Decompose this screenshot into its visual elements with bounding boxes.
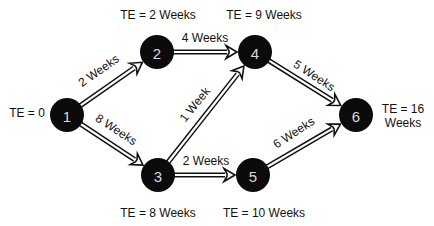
expected-time-label-line2: Weeks [385, 116, 421, 130]
node-number: 2 [153, 45, 161, 62]
expected-time-label: TE = 0 [9, 106, 45, 120]
edge-duration-label: 1 Week [177, 84, 214, 125]
node-number: 6 [352, 108, 360, 125]
edge-duration-label: 4 Weeks [182, 31, 228, 45]
pert-network-diagram: 123456 2 Weeks8 Weeks4 Weeks1 Week2 Week… [0, 0, 434, 226]
node-number: 4 [251, 45, 259, 62]
edge-2-4 [172, 46, 237, 59]
edge-3-5 [173, 169, 235, 182]
node-5: 5 [236, 158, 270, 192]
edge-duration-label: 2 Weeks [183, 154, 229, 168]
node-number: 1 [63, 108, 71, 125]
edge-duration-label: 6 Weeks [271, 114, 318, 151]
expected-time-label: TE = 9 Weeks [226, 8, 301, 22]
node-number: 5 [249, 168, 257, 185]
node-3: 3 [141, 158, 175, 192]
node-4: 4 [238, 35, 272, 69]
node-6: 6 [339, 98, 373, 132]
node-2: 2 [140, 35, 174, 69]
expected-time-label: TE = 2 Weeks [120, 8, 195, 22]
edge-duration-label: 8 Weeks [93, 111, 140, 148]
expected-time-label: TE = 16 [382, 102, 425, 116]
expected-time-label: TE = 8 Weeks [120, 206, 195, 220]
node-number: 3 [154, 168, 162, 185]
node-1: 1 [50, 98, 84, 132]
expected-time-label: TE = 10 Weeks [223, 206, 305, 220]
